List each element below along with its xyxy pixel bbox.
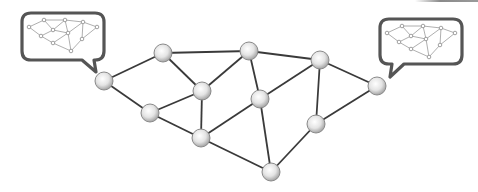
network-diagram xyxy=(0,0,478,192)
node-F xyxy=(251,90,269,108)
node-G xyxy=(192,129,210,147)
edge-H-I xyxy=(271,124,316,172)
node-C xyxy=(193,82,211,100)
edge-A-B xyxy=(104,53,163,81)
edge-B-E xyxy=(163,51,249,53)
node-J xyxy=(311,51,329,69)
node-H xyxy=(262,163,280,181)
left-bubble xyxy=(22,13,104,72)
edge-I-J xyxy=(316,60,320,124)
node-I xyxy=(307,115,325,133)
edge-F-J xyxy=(260,60,320,99)
edge-E-J xyxy=(249,51,320,60)
node-D xyxy=(141,104,159,122)
node-B xyxy=(154,44,172,62)
edge-F-G xyxy=(201,99,260,138)
node-E xyxy=(240,42,258,60)
right-bubble xyxy=(380,19,462,77)
edge-F-H xyxy=(260,99,271,172)
edge-G-H xyxy=(201,138,271,172)
node-K xyxy=(368,77,386,95)
node-A xyxy=(95,72,113,90)
edge-I-K xyxy=(316,86,377,124)
